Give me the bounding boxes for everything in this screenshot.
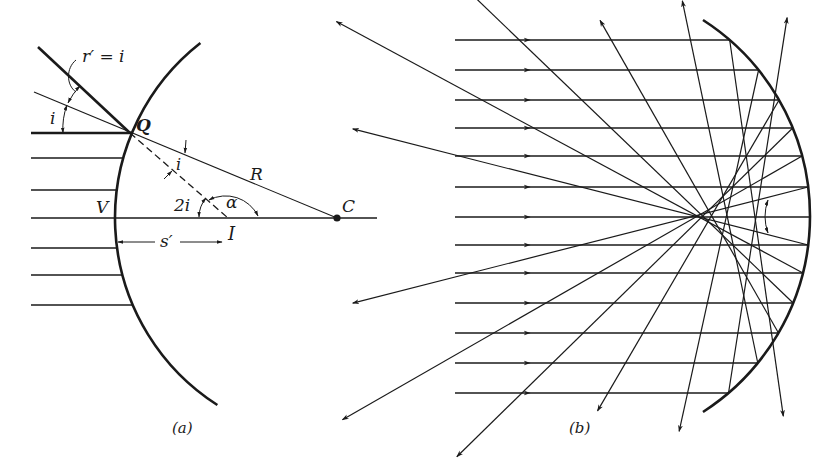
- panel-b-ray-caustic: (b): [336, 0, 810, 457]
- tick-i-upper: [185, 140, 186, 153]
- center-point-c: [333, 214, 340, 221]
- angle-arc-2i: [199, 198, 206, 217]
- tick-i-lower: [164, 171, 172, 179]
- figure-spherical-aberration: r′ = i i Q i R 2i α V C I s′ (a) (b): [0, 0, 840, 458]
- angle-arc-i: [63, 105, 67, 133]
- label-angle-alpha: α: [226, 192, 238, 212]
- reflected-ray: [598, 100, 780, 411]
- reflected-rays-b: [336, 0, 808, 457]
- label-center-c: C: [342, 196, 355, 216]
- incoming-rays-b: [455, 40, 810, 393]
- label-distance-s-prime: s′: [160, 231, 173, 251]
- diagram-canvas: r′ = i i Q i R 2i α V C I s′ (a) (b): [0, 0, 840, 458]
- caption-a: (a): [172, 419, 193, 437]
- caption-b: (b): [569, 419, 590, 437]
- label-angle-2i: 2i: [173, 195, 190, 215]
- angle-arc-r-prime: [68, 86, 80, 103]
- label-point-q: Q: [136, 115, 151, 135]
- label-r-prime-equals-i: r′ = i: [82, 46, 124, 66]
- label-radius-r: R: [249, 164, 263, 184]
- label-vertex-v: V: [96, 197, 110, 217]
- label-image-i: I: [227, 223, 236, 244]
- concave-mirror-a: [115, 43, 217, 405]
- label-angle-i-incident: i: [50, 108, 55, 128]
- label-angle-i-inner: i: [176, 155, 181, 174]
- reflected-ray: [600, 20, 778, 333]
- reflected-ray: [454, 0, 793, 303]
- panel-a-mirror-geometry: r′ = i i Q i R 2i α V C I s′ (a): [31, 43, 377, 437]
- incoming-rays-a: [31, 133, 133, 305]
